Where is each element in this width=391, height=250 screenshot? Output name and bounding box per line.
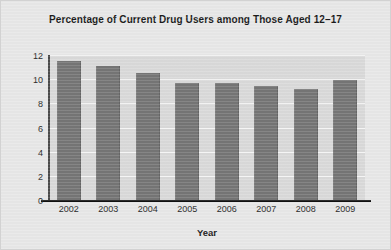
y-tick-label: 8 <box>21 99 43 109</box>
y-axis-tick-labels: 024681012 <box>19 56 43 201</box>
x-axis-title: Year <box>49 227 365 238</box>
plot-area <box>49 56 365 201</box>
bar <box>254 86 278 201</box>
bar <box>333 80 357 201</box>
bar <box>215 83 239 201</box>
x-tick-label: 2006 <box>217 204 237 214</box>
bar <box>175 83 199 201</box>
y-tick-label: 4 <box>21 148 43 158</box>
y-tick-label: 6 <box>21 124 43 134</box>
bar <box>136 73 160 201</box>
bar <box>57 61 81 201</box>
chart-title: Percentage of Current Drug Users among T… <box>1 14 390 25</box>
bars-group <box>49 56 365 201</box>
x-axis-tick-labels: 20022003200420052006200720082009 <box>49 204 365 218</box>
x-tick-label: 2008 <box>296 204 316 214</box>
y-tick-label: 0 <box>21 196 43 206</box>
bar <box>96 66 120 201</box>
x-tick-label: 2002 <box>59 204 79 214</box>
y-axis-line <box>48 55 50 202</box>
x-tick-label: 2007 <box>256 204 276 214</box>
chart-figure: Percentage of Current Drug Users among T… <box>0 0 391 250</box>
x-tick-label: 2004 <box>138 204 158 214</box>
x-tick-label: 2003 <box>98 204 118 214</box>
bar <box>294 89 318 201</box>
x-tick-label: 2009 <box>335 204 355 214</box>
y-tick-label: 2 <box>21 172 43 182</box>
x-tick-label: 2005 <box>177 204 197 214</box>
x-axis-line <box>41 200 371 202</box>
y-tick-label: 10 <box>21 75 43 85</box>
y-tick-label: 12 <box>21 51 43 61</box>
